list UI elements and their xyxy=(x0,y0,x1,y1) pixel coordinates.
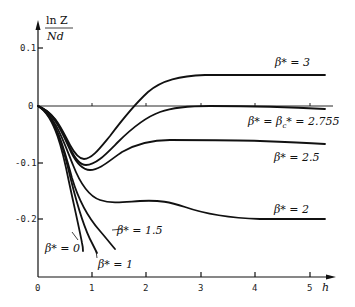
chart-figure: 0.1 0 -0.1 -0.2 0 1 2 3 4 5 h ln Z Nd xyxy=(0,0,355,307)
curve-beta-1 xyxy=(38,106,97,253)
y-tick-label: 0.1 xyxy=(20,43,36,53)
x-tick-label: 4 xyxy=(252,283,257,293)
x-tick-label: 3 xyxy=(198,283,203,293)
label-beta-2: β* = 2 xyxy=(273,203,309,216)
x-tick-label: 0 xyxy=(35,283,40,293)
x-axis xyxy=(38,272,336,280)
y-tick-label: 0 xyxy=(28,101,33,111)
label-beta-1: β* = 1 xyxy=(97,258,133,271)
series-group xyxy=(38,75,325,253)
zero-line xyxy=(38,103,333,106)
x-tick-label: 2 xyxy=(143,283,148,293)
label-beta-15: β* = 1.5 xyxy=(116,224,163,237)
y-axis-arrow-icon xyxy=(36,20,41,30)
x-tick-label: 5 xyxy=(307,283,312,293)
label-beta-3: β* = 3 xyxy=(274,56,310,69)
x-axis-arrow-icon xyxy=(326,275,336,280)
label-beta-25: β* = 2.5 xyxy=(273,151,320,164)
y-tick-label: -0.1 xyxy=(15,158,37,168)
y-axis-label-numerator: ln Z xyxy=(46,14,68,27)
curve-beta-15 xyxy=(38,106,115,249)
y-axis-label-denominator: Nd xyxy=(46,30,64,43)
x-axis-label: h xyxy=(322,281,329,294)
y-axis xyxy=(36,20,44,277)
x-tick-label: 1 xyxy=(89,283,94,293)
label-beta-c: β* = βc* = 2.755 xyxy=(247,115,340,130)
chart-canvas: 0.1 0 -0.1 -0.2 0 1 2 3 4 5 h ln Z Nd xyxy=(0,0,355,307)
label-beta-0: β* = 0 xyxy=(44,242,80,255)
y-tick-label: -0.2 xyxy=(15,214,37,224)
